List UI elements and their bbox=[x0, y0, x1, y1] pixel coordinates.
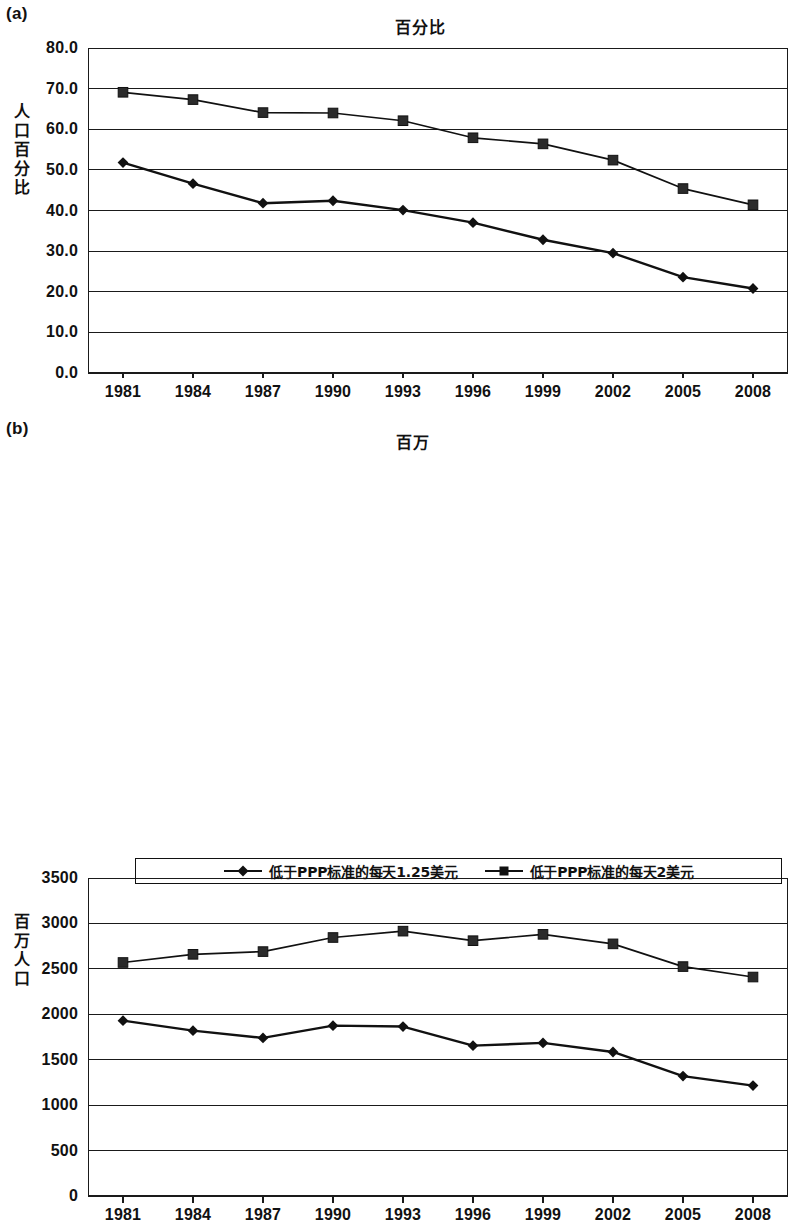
y-tick-label: 80.0 bbox=[46, 39, 78, 57]
x-tick-label: 1987 bbox=[245, 1206, 281, 1224]
legend-label-0: 低于PPP标准的每天1.25美元 bbox=[269, 861, 457, 881]
x-tick-label: 1996 bbox=[455, 1206, 491, 1224]
y-tick-label: 10.0 bbox=[46, 323, 78, 341]
y-tick-label: 50.0 bbox=[46, 161, 78, 179]
panel-a-y-tick-labels: 0.010.020.030.040.050.060.070.080.0 bbox=[26, 48, 78, 373]
y-tick-label: 70.0 bbox=[46, 80, 78, 98]
x-tick-label: 2005 bbox=[665, 383, 701, 401]
x-tick-label: 2008 bbox=[735, 383, 771, 401]
x-tick-label: 1999 bbox=[525, 383, 561, 401]
y-tick-label: 30.0 bbox=[46, 242, 78, 260]
x-tick-label: 2002 bbox=[595, 383, 631, 401]
x-tick-label: 1990 bbox=[315, 383, 351, 401]
y-tick-label: 0.0 bbox=[55, 364, 78, 382]
y-tick-label: 40.0 bbox=[46, 202, 78, 220]
x-tick-label: 1990 bbox=[315, 1206, 351, 1224]
y-tick-label: 1000 bbox=[42, 1096, 78, 1114]
y-tick-label: 3000 bbox=[42, 914, 78, 932]
x-tick-label: 2008 bbox=[735, 1206, 771, 1224]
x-tick-label: 2002 bbox=[595, 1206, 631, 1224]
y-tick-label: 20.0 bbox=[46, 283, 78, 301]
x-tick-label: 1999 bbox=[525, 1206, 561, 1224]
y-tick-label: 3500 bbox=[42, 869, 78, 887]
panel-b-title: 百万 bbox=[0, 429, 792, 453]
x-tick-label: 1981 bbox=[105, 1206, 141, 1224]
panel-a-title: 百分比 bbox=[0, 14, 792, 38]
y-tick-label: 500 bbox=[51, 1142, 78, 1160]
x-tick-label: 1996 bbox=[455, 383, 491, 401]
y-tick-label: 1500 bbox=[42, 1051, 78, 1069]
x-tick-label: 1981 bbox=[105, 383, 141, 401]
panel-b-y-tick-labels: 0500100015002000250030003500 bbox=[26, 878, 78, 1196]
legend-label-1: 低于PPP标准的每天2美元 bbox=[530, 861, 694, 881]
square-marker-icon bbox=[484, 864, 524, 878]
legend-entry-1: 低于PPP标准的每天2美元 bbox=[484, 861, 694, 881]
y-tick-label: 2000 bbox=[42, 1005, 78, 1023]
x-tick-label: 1993 bbox=[385, 1206, 421, 1224]
legend-entry-0: 低于PPP标准的每天1.25美元 bbox=[223, 861, 457, 881]
diamond-marker-icon bbox=[223, 864, 263, 878]
chart-panel-b: (b) 百万 百万人口 0500100015002000250030003500… bbox=[0, 415, 792, 845]
y-tick-label: 0 bbox=[69, 1187, 78, 1205]
panel-b-plot-area bbox=[88, 878, 788, 1208]
x-tick-label: 1987 bbox=[245, 383, 281, 401]
x-tick-label: 2005 bbox=[665, 1206, 701, 1224]
chart-panel-a: (a) 百分比 人口百分比 0.010.020.030.040.050.060.… bbox=[0, 0, 792, 412]
y-tick-label: 60.0 bbox=[46, 120, 78, 138]
x-tick-label: 1993 bbox=[385, 383, 421, 401]
chart-legend: 低于PPP标准的每天1.25美元 低于PPP标准的每天2美元 bbox=[135, 858, 782, 884]
panel-a-plot-area bbox=[88, 48, 788, 378]
y-tick-label: 2500 bbox=[42, 960, 78, 978]
x-tick-label: 1984 bbox=[175, 1206, 211, 1224]
x-tick-label: 1984 bbox=[175, 383, 211, 401]
